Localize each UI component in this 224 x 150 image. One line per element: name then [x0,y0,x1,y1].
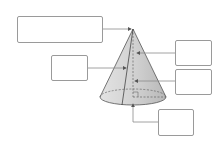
label-box-base-center[interactable] [158,109,194,136]
label-box-slant-height[interactable] [51,55,88,81]
label-box-height-upper[interactable] [175,40,212,66]
label-box-height-lower[interactable] [175,69,212,95]
connector-base-center [133,104,158,122]
label-box-apex[interactable] [17,16,103,43]
